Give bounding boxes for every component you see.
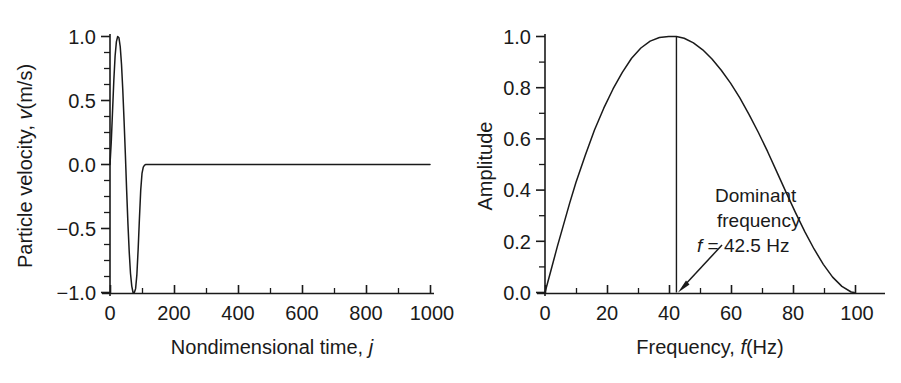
x-axis-title-left-pre: Nondimensional time, <box>171 336 363 358</box>
x-tick-label: 600 <box>285 302 318 324</box>
y-tick-labels-left: 1.0 0.5 0.0 −0.5 −1.0 <box>57 26 96 304</box>
y-tick-label: 0.4 <box>503 179 531 201</box>
y-tick-labels-right: 1.0 0.8 0.6 0.4 0.2 0.0 <box>503 26 531 304</box>
x-tick-label: 100 <box>840 302 873 324</box>
waveform-curve <box>110 37 430 293</box>
panel-particle-velocity: Particle velocity, v(m/s) <box>0 0 460 383</box>
x-tick-label: 0 <box>539 302 550 324</box>
dominant-frequency-annotation: Dominant frequency f = 42.5 Hz <box>697 185 801 256</box>
y-tick-label: 0.0 <box>68 154 96 176</box>
annotation-line-2: frequency <box>717 210 801 231</box>
x-tick-label: 40 <box>658 302 680 324</box>
x-tick-label: 1000 <box>410 302 455 324</box>
y-axis-title-left-post: (m/s) <box>14 64 36 110</box>
x-axis-title-right-post: (Hz) <box>746 336 784 358</box>
annotation-value: = 42.5 Hz <box>702 235 789 256</box>
y-axis-title-left: Particle velocity, v(m/s) <box>14 64 36 268</box>
annotation-line-1: Dominant <box>715 185 797 206</box>
x-axis-title-right-pre: Frequency, <box>636 336 740 358</box>
svg-text:Particle velocity, v(m/s): Particle velocity, v(m/s) <box>14 64 36 268</box>
panel-amplitude-spectrum: Amplitude 1.0 <box>460 0 901 383</box>
y-tick-label: 0.2 <box>503 231 531 253</box>
y-tick-label: −1.0 <box>57 282 96 304</box>
y-major-ticks-left <box>101 37 110 293</box>
y-axis-title-left-pre: Particle velocity, <box>14 119 36 268</box>
x-tick-label: 20 <box>596 302 618 324</box>
x-axis-title-left: Nondimensional time, j <box>171 336 374 358</box>
annotation-line-3: f = 42.5 Hz <box>697 235 789 256</box>
particle-velocity-plot: Particle velocity, v(m/s) <box>0 0 460 383</box>
x-tick-label: 60 <box>720 302 742 324</box>
y-tick-label: 0.5 <box>68 90 96 112</box>
x-tick-labels-left: 0 200 400 600 800 1000 <box>104 302 454 324</box>
x-tick-labels-right: 0 20 40 60 80 100 <box>539 302 873 324</box>
x-axis-title-right: Frequency, f(Hz) <box>636 336 783 358</box>
y-tick-label: −0.5 <box>57 218 96 240</box>
x-tick-label: 200 <box>157 302 190 324</box>
two-panel-seismic-source-figure: Particle velocity, v(m/s) <box>0 0 901 383</box>
y-axis-title-right: Amplitude <box>474 122 496 211</box>
y-tick-label: 1.0 <box>68 26 96 48</box>
y-tick-label: 0.8 <box>503 77 531 99</box>
x-tick-label: 80 <box>782 302 804 324</box>
y-minor-ticks-right <box>539 62 545 267</box>
amplitude-spectrum-plot: Amplitude 1.0 <box>460 0 901 383</box>
x-tick-label: 800 <box>349 302 382 324</box>
x-tick-label: 0 <box>104 302 115 324</box>
y-tick-label: 1.0 <box>503 26 531 48</box>
y-tick-label: 0.6 <box>503 128 531 150</box>
y-tick-label: 0.0 <box>503 282 531 304</box>
x-tick-label: 400 <box>221 302 254 324</box>
